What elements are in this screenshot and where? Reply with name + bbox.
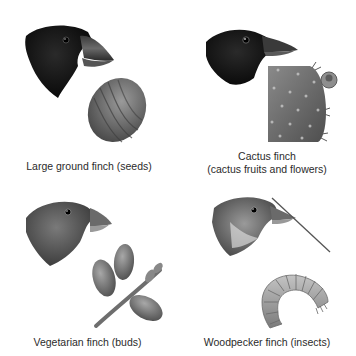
panel-woodpecker-finch: Woodpecker finch (insects) xyxy=(178,178,356,356)
grub-icon xyxy=(262,274,328,328)
panel-cactus-finch: Cactus finch (cactus fruits and flowers) xyxy=(178,0,356,178)
bud-branch-icon xyxy=(88,243,167,326)
caption-cactus-finch-line1: Cactus finch xyxy=(178,150,356,163)
woodpecker-finch-illustration xyxy=(178,178,356,356)
panel-large-ground-finch: Large ground finch (seeds) xyxy=(0,0,178,178)
caption-cactus-finch-line2: (cactus fruits and flowers) xyxy=(178,163,356,176)
seed-icon xyxy=(77,68,157,153)
vegetarian-finch-illustration xyxy=(0,178,178,356)
cactus-flower xyxy=(321,72,337,88)
finch-head-woodpecker xyxy=(212,197,296,256)
caption-vegetarian-finch: Vegetarian finch (buds) xyxy=(0,336,175,349)
panel-vegetarian-finch: Vegetarian finch (buds) xyxy=(0,178,178,356)
twig-tool xyxy=(272,198,330,252)
cactus-pad-icon xyxy=(268,62,337,142)
caption-woodpecker-finch: Woodpecker finch (insects) xyxy=(178,336,356,349)
large-ground-finch-illustration xyxy=(0,0,178,178)
finch-head-vegetarian xyxy=(26,202,112,266)
caption-large-ground-finch: Large ground finch (seeds) xyxy=(0,160,178,173)
